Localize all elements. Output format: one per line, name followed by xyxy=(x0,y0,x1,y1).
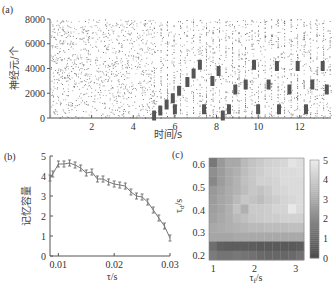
svg-text:1: 1 xyxy=(323,233,328,244)
svg-text:0: 0 xyxy=(41,251,46,262)
panel-c-y-label: τd/s xyxy=(173,199,186,213)
svg-text:0.6: 0.6 xyxy=(193,159,206,170)
panel-c: (c) 0.20.30.40.50.6 123 012345 τd/s τf/s xyxy=(172,149,328,285)
panel-b-label: (b) xyxy=(4,151,16,163)
raster-background-spikes xyxy=(50,19,331,119)
raster-memory-clusters xyxy=(152,60,329,121)
colorbar xyxy=(310,160,319,258)
svg-text:1: 1 xyxy=(41,231,46,242)
svg-text:0.4: 0.4 xyxy=(193,205,206,216)
figure-canvas: (a) 02000400060008000 24681012 神经元/个 时间/… xyxy=(0,0,332,286)
svg-text:3: 3 xyxy=(293,263,298,274)
svg-text:0.5: 0.5 xyxy=(193,182,206,193)
heatmap-grid xyxy=(209,158,304,260)
svg-text:0: 0 xyxy=(323,253,328,264)
memory-capacity-curve xyxy=(49,160,172,241)
panel-a-label: (a) xyxy=(2,4,13,16)
panel-c-label: (c) xyxy=(172,149,183,161)
svg-text:2: 2 xyxy=(41,211,46,222)
svg-text:8: 8 xyxy=(214,121,219,132)
svg-text:4: 4 xyxy=(323,174,328,185)
svg-text:10: 10 xyxy=(253,121,263,132)
svg-text:4000: 4000 xyxy=(25,63,45,74)
svg-text:1: 1 xyxy=(211,263,216,274)
panel-b: (b) 012345 0.010.020.03 记忆容量 τ/s xyxy=(4,151,179,283)
svg-text:2000: 2000 xyxy=(25,88,45,99)
panel-a: (a) 02000400060008000 24681012 神经元/个 时间/… xyxy=(2,4,332,140)
svg-text:0: 0 xyxy=(40,113,45,124)
svg-text:4: 4 xyxy=(131,121,136,132)
svg-text:6000: 6000 xyxy=(25,38,45,49)
svg-text:0.01: 0.01 xyxy=(50,259,68,270)
svg-text:4: 4 xyxy=(41,171,46,182)
panel-a-x-label: 时间/s xyxy=(154,128,183,140)
panel-b-y-label: 记忆容量 xyxy=(20,186,32,226)
svg-text:3: 3 xyxy=(41,191,46,202)
svg-text:3: 3 xyxy=(323,194,328,205)
panel-c-x-label: τf/s xyxy=(249,272,262,285)
svg-text:12: 12 xyxy=(295,121,305,132)
svg-text:2: 2 xyxy=(323,213,328,224)
svg-text:0.02: 0.02 xyxy=(105,259,123,270)
svg-text:0.2: 0.2 xyxy=(193,250,206,261)
svg-text:2: 2 xyxy=(89,121,94,132)
panel-c-y-ticks: 0.20.30.40.50.6 xyxy=(193,159,206,261)
panel-c-x-ticks: 123 xyxy=(211,263,299,274)
panel-b-x-label: τ/s xyxy=(107,271,118,282)
svg-text:8000: 8000 xyxy=(25,14,45,25)
colorbar-ticks: 012345 xyxy=(323,155,328,264)
svg-text:0.03: 0.03 xyxy=(161,259,179,270)
svg-text:5: 5 xyxy=(41,151,46,162)
panel-a-y-ticks: 02000400060008000 xyxy=(25,14,50,124)
svg-text:5: 5 xyxy=(323,155,328,166)
panel-b-y-ticks: 012345 xyxy=(41,151,53,262)
panel-a-y-label: 神经元/个 xyxy=(8,46,20,89)
svg-text:0.3: 0.3 xyxy=(193,227,206,238)
